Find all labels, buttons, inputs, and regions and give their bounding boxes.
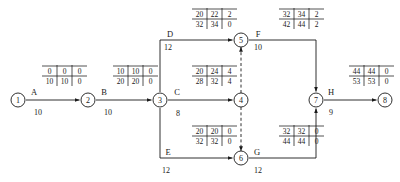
activity-duration-f: 10 bbox=[254, 43, 262, 52]
activity-duration-d: 12 bbox=[164, 43, 172, 52]
activity-table-d: 2022232340 bbox=[192, 8, 237, 29]
activity-duration-b: 10 bbox=[104, 108, 112, 117]
cell-h-tf: 0 bbox=[385, 67, 389, 76]
cell-e-lf: 32 bbox=[211, 137, 219, 146]
activity-name-f: F bbox=[256, 29, 261, 39]
cell-f-ef: 34 bbox=[298, 10, 306, 19]
cell-e-ls: 32 bbox=[196, 137, 204, 146]
cell-g-ls: 44 bbox=[283, 137, 291, 146]
cell-e-tf: 0 bbox=[228, 127, 232, 136]
activity-name-d: D bbox=[167, 29, 173, 39]
cell-e-ef: 20 bbox=[211, 127, 219, 136]
activity-name-b: B bbox=[101, 87, 107, 97]
activity-table-h: 4444053530 bbox=[349, 65, 394, 86]
node-label-5: 5 bbox=[239, 36, 243, 45]
activity-name-e: E bbox=[165, 147, 170, 157]
node-1[interactable]: 1 bbox=[11, 93, 25, 107]
activity-name-g: G bbox=[254, 147, 260, 157]
cell-f-ls: 42 bbox=[283, 20, 291, 29]
activity-name-c: C bbox=[174, 87, 180, 97]
activity-name-h: H bbox=[328, 87, 334, 97]
activity-labels-layer: A10B10C8D12E12F10G12H9 bbox=[31, 29, 334, 175]
cell-f-tf: 2 bbox=[315, 10, 319, 19]
node-label-1: 1 bbox=[16, 96, 20, 105]
cell-d-ff: 0 bbox=[228, 20, 232, 29]
cell-a-ls: 10 bbox=[46, 77, 54, 86]
node-label-8: 8 bbox=[383, 96, 387, 105]
node-5[interactable]: 5 bbox=[234, 33, 248, 47]
cell-g-es: 32 bbox=[283, 127, 291, 136]
cell-a-ef: 0 bbox=[63, 67, 67, 76]
cell-c-lf: 32 bbox=[211, 77, 219, 86]
cell-b-ff: 0 bbox=[149, 77, 153, 86]
cell-g-ef: 32 bbox=[298, 127, 306, 136]
cell-a-tf: 0 bbox=[78, 67, 82, 76]
cell-g-tf: 0 bbox=[315, 127, 319, 136]
cell-f-ff: 2 bbox=[315, 20, 319, 29]
activity-table-f: 3234242442 bbox=[279, 8, 324, 29]
cell-f-lf: 44 bbox=[298, 20, 306, 29]
cell-h-es: 44 bbox=[353, 67, 361, 76]
activity-duration-c: 8 bbox=[176, 109, 180, 118]
activity-table-g: 3232044440 bbox=[279, 125, 324, 146]
cell-e-ff: 0 bbox=[228, 137, 232, 146]
cell-b-es: 10 bbox=[117, 67, 125, 76]
cell-b-lf: 20 bbox=[132, 77, 140, 86]
activity-table-c: 2024428324 bbox=[192, 65, 237, 86]
activity-duration-a: 10 bbox=[34, 108, 42, 117]
cell-d-tf: 2 bbox=[228, 10, 232, 19]
node-2[interactable]: 2 bbox=[81, 93, 95, 107]
cell-c-ef: 24 bbox=[211, 67, 219, 76]
cell-g-lf: 44 bbox=[298, 137, 306, 146]
cell-h-ls: 53 bbox=[353, 77, 361, 86]
cell-e-es: 20 bbox=[196, 127, 204, 136]
cell-a-es: 0 bbox=[48, 67, 52, 76]
cell-g-ff: 0 bbox=[315, 137, 319, 146]
node-4[interactable]: 4 bbox=[234, 93, 248, 107]
cell-a-lf: 10 bbox=[61, 77, 69, 86]
cell-h-ff: 0 bbox=[385, 77, 389, 86]
network-diagram-canvas: 0001010010100202002024428324202223234020… bbox=[0, 0, 400, 182]
cell-b-ls: 20 bbox=[117, 77, 125, 86]
node-6[interactable]: 6 bbox=[234, 151, 248, 165]
activity-duration-e: 12 bbox=[162, 166, 170, 175]
cell-h-lf: 53 bbox=[368, 77, 376, 86]
cell-d-ls: 32 bbox=[196, 20, 204, 29]
node-label-7: 7 bbox=[314, 96, 318, 105]
activity-name-a: A bbox=[31, 87, 38, 97]
node-label-6: 6 bbox=[239, 154, 243, 163]
activity-table-e: 2020032320 bbox=[192, 125, 237, 146]
node-label-3: 3 bbox=[158, 96, 162, 105]
node-3[interactable]: 3 bbox=[153, 93, 167, 107]
activity-table-a: 00010100 bbox=[42, 65, 87, 86]
node-8[interactable]: 8 bbox=[378, 93, 392, 107]
cell-f-es: 32 bbox=[283, 10, 291, 19]
cell-d-es: 20 bbox=[196, 10, 204, 19]
cell-h-ef: 44 bbox=[368, 67, 376, 76]
cell-b-tf: 0 bbox=[149, 67, 153, 76]
cell-d-lf: 34 bbox=[211, 20, 219, 29]
network-diagram-svg: 0001010010100202002024428324202223234020… bbox=[0, 0, 400, 182]
activity-tables-layer: 0001010010100202002024428324202223234020… bbox=[42, 8, 394, 146]
activity-table-b: 1010020200 bbox=[113, 65, 158, 86]
node-label-4: 4 bbox=[239, 96, 243, 105]
node-label-2: 2 bbox=[86, 96, 90, 105]
cell-c-es: 20 bbox=[196, 67, 204, 76]
activity-duration-g: 12 bbox=[254, 166, 262, 175]
cell-b-ef: 10 bbox=[132, 67, 140, 76]
cell-c-tf: 4 bbox=[228, 67, 232, 76]
activity-duration-h: 9 bbox=[329, 108, 333, 117]
cell-d-ef: 22 bbox=[211, 10, 219, 19]
cell-c-ff: 4 bbox=[228, 77, 232, 86]
cell-a-ff: 0 bbox=[78, 77, 82, 86]
cell-c-ls: 28 bbox=[196, 77, 204, 86]
node-7[interactable]: 7 bbox=[309, 93, 323, 107]
